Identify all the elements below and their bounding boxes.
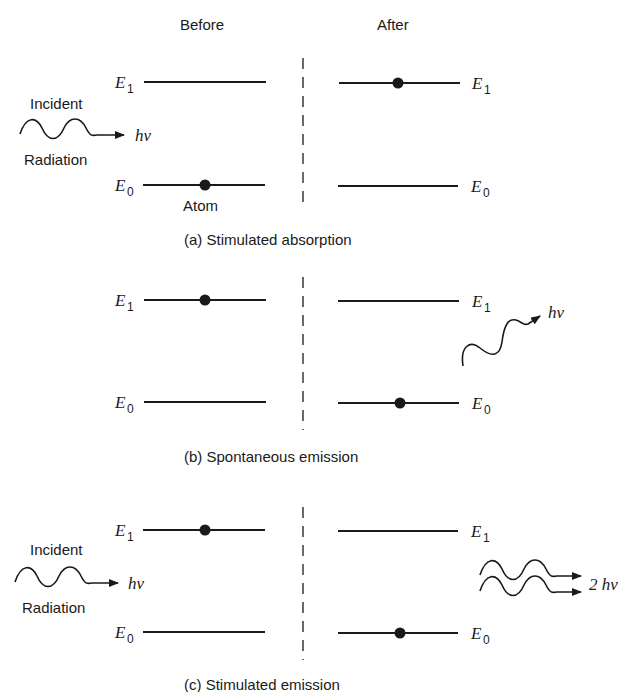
incident-wave-icon — [20, 119, 124, 139]
level-subscript: 1 — [127, 82, 134, 96]
level-label-e1: E — [471, 74, 483, 93]
level-subscript: 0 — [127, 185, 134, 199]
level-subscript: 0 — [484, 403, 491, 417]
level-subscript: 0 — [127, 632, 134, 646]
level-label-e1: E — [470, 522, 482, 541]
level-label-e0: E — [471, 394, 483, 413]
level-label-e0: E — [470, 624, 482, 643]
level-label-e1: E — [471, 292, 483, 311]
level-subscript: 1 — [484, 301, 491, 315]
panel-b-spontaneous-emission: E 1 E 0 E 1 E 0 hν (b) Spontaneous emiss… — [114, 277, 565, 465]
level-label-e1: E — [114, 521, 126, 540]
level-label-e0: E — [114, 623, 126, 642]
level-label-e0: E — [114, 176, 126, 195]
level-label-e0: E — [470, 177, 482, 196]
level-label-e1: E — [114, 291, 126, 310]
level-subscript: 1 — [484, 83, 491, 97]
before-header: Before — [180, 16, 224, 33]
level-subscript: 1 — [127, 300, 134, 314]
panel-c-stimulated-emission: E 1 Incident hν Radiation E 0 E 1 E 0 2 … — [15, 507, 618, 692]
electron-dot — [200, 525, 211, 536]
electron-dot — [200, 295, 211, 306]
panel-caption: (c) Stimulated emission — [184, 676, 340, 692]
atom-label: Atom — [183, 197, 218, 214]
incident-label: Incident — [30, 95, 83, 112]
energy-level-diagram: Before After E 1 E 0 Atom Incident hν Ra… — [0, 0, 644, 692]
electron-dot — [395, 628, 406, 639]
emitted-wave-icon — [480, 576, 581, 596]
radiation-label: Radiation — [22, 599, 85, 616]
level-label-e0: E — [114, 393, 126, 412]
radiation-label: Radiation — [24, 151, 87, 168]
level-subscript: 1 — [127, 530, 134, 544]
panel-a-stimulated-absorption: E 1 E 0 Atom Incident hν Radiation E 1 E… — [20, 58, 491, 248]
level-subscript: 0 — [483, 186, 490, 200]
level-subscript: 1 — [483, 531, 490, 545]
panel-caption: (b) Spontaneous emission — [184, 448, 358, 465]
photon-label: hν — [548, 303, 565, 322]
panel-caption: (a) Stimulated absorption — [184, 231, 352, 248]
incident-label: Incident — [30, 541, 83, 558]
after-header: After — [377, 16, 409, 33]
incident-wave-icon — [15, 567, 118, 587]
level-subscript: 0 — [127, 402, 134, 416]
electron-dot — [200, 180, 211, 191]
electron-dot — [395, 398, 406, 409]
emitted-wave-icon — [462, 316, 540, 366]
photon-label: hν — [135, 126, 152, 145]
photon-label: hν — [128, 574, 145, 593]
electron-dot — [393, 78, 404, 89]
level-label-e1: E — [114, 73, 126, 92]
level-subscript: 0 — [483, 633, 490, 647]
photon-label: 2 hν — [589, 575, 618, 594]
